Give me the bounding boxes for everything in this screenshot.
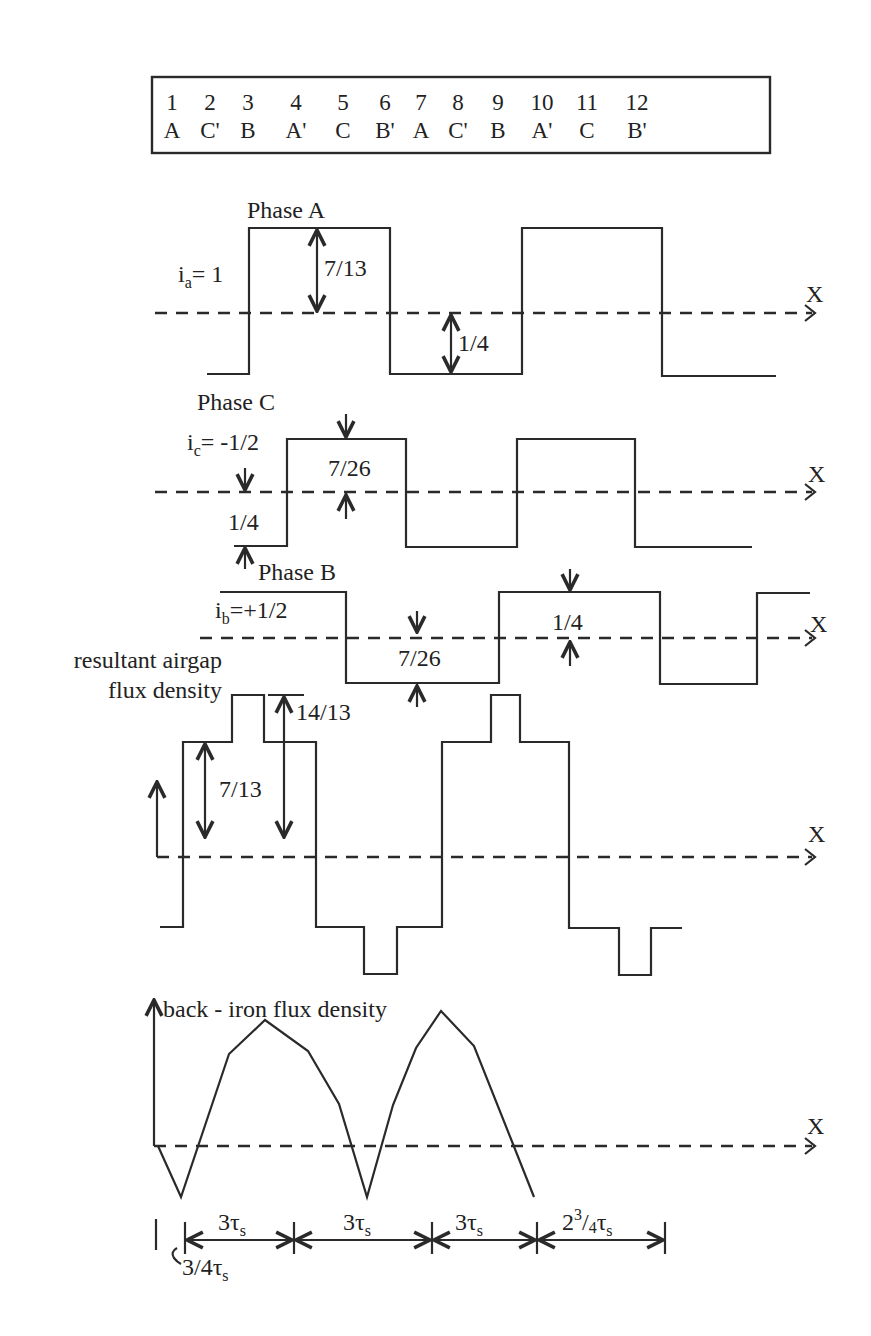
slot-number: 9 [492,90,504,115]
phase-a-axis-label: X [806,281,823,307]
phase-c-title: Phase C [197,389,275,415]
airgap-title-line2: flux density [108,677,222,703]
segment-label: 3τs [455,1209,483,1239]
pitch-dimensions: 3τs 3τs 3τs 23/4τs 3/4τs [156,1206,665,1284]
phase-a-dim-top: 7/13 [324,255,367,281]
slot-number: 10 [531,90,554,115]
slot-phase: A' [286,118,307,143]
slot-number: 1 [166,90,178,115]
phase-b-plot: Phase B ib=+1/2 X 7/26 1/4 [200,559,827,707]
slot-phase: A' [532,118,553,143]
slot-number: 8 [452,90,464,115]
phase-b-dim-top: 1/4 [552,609,583,635]
slot-phase: A [164,118,181,143]
phase-a-plot: Phase A ia= 1 X 7/13 1/4 [155,197,823,376]
slot-number: 11 [576,90,598,115]
slot-number: 2 [204,90,216,115]
slot-number: 3 [242,90,254,115]
airgap-title-line1: resultant airgap [74,647,222,673]
airgap-dim-peak: 14/13 [296,699,351,725]
airgap-dim-step: 7/13 [219,776,262,802]
waveform-diagram: 1 2 3 4 5 6 7 8 9 10 11 12 A C' B A' C B… [0,0,871,1336]
phase-c-dim-bottom: 1/4 [228,509,259,535]
brace-icon [173,1248,181,1264]
airgap-axis-label: X [808,821,825,847]
slot-number: 4 [290,90,302,115]
back-iron-flux-plot: back - iron flux density X [154,996,824,1197]
slot-phase: B [490,118,505,143]
back-iron-waveform [158,1011,534,1197]
slot-phase: B' [627,118,647,143]
slot-phase: C' [200,118,220,143]
phase-b-title: Phase B [258,559,336,585]
phase-a-waveform [207,228,776,376]
segment-label: 23/4τs [562,1206,613,1239]
phase-b-dim-bottom: 7/26 [398,645,441,671]
slot-number: 12 [626,90,649,115]
airgap-waveform [160,695,682,975]
offset-label: 3/4τs [182,1254,229,1284]
phase-b-axis-label: X [810,611,827,637]
slot-phase: B' [375,118,395,143]
slot-phase: C' [448,118,468,143]
back-iron-axis-label: X [807,1113,824,1139]
segment-label: 3τs [218,1209,246,1239]
phase-c-current: ic= -1/2 [187,429,259,459]
slot-number: 7 [415,90,427,115]
slot-table: 1 2 3 4 5 6 7 8 9 10 11 12 A C' B A' C B… [152,77,770,153]
airgap-flux-plot: resultant airgap flux density X 14/13 7/… [74,647,826,975]
phase-b-current: ib=+1/2 [215,597,287,627]
phase-a-title: Phase A [247,197,326,223]
phase-c-dim-top: 7/26 [328,455,371,481]
slot-number: 5 [337,90,349,115]
slot-phase: C [335,118,350,143]
slot-phase: C [579,118,594,143]
slot-phase: A [413,118,430,143]
segment-label: 3τs [343,1209,371,1239]
phase-a-current: ia= 1 [178,261,223,291]
slot-number: 6 [379,90,391,115]
phase-a-dim-bottom: 1/4 [458,330,489,356]
back-iron-title: back - iron flux density [163,996,387,1022]
phase-c-axis-label: X [808,461,825,487]
phase-c-plot: Phase C ic= -1/2 X 7/26 1/4 [155,389,825,569]
slot-phase: B [240,118,255,143]
